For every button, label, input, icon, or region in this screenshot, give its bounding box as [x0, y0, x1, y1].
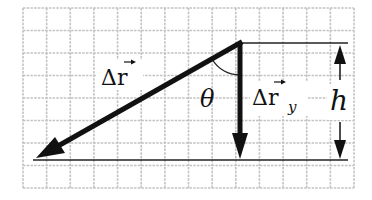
arrowhead-up-icon	[334, 45, 346, 64]
delta-r-y-subscript: y	[287, 98, 297, 116]
delta-r-label: Δr	[101, 65, 128, 90]
delta-r-y-vector	[232, 43, 248, 159]
arrowhead-icon	[232, 133, 248, 159]
arrowhead-down-icon	[334, 140, 346, 159]
h-label: h	[330, 84, 348, 117]
displacement-diagram: Δr θ Δr y h	[0, 0, 372, 200]
delta-r-y-label: Δr	[252, 85, 279, 110]
theta-label: θ	[200, 85, 215, 113]
arrowhead-icon	[36, 137, 65, 158]
